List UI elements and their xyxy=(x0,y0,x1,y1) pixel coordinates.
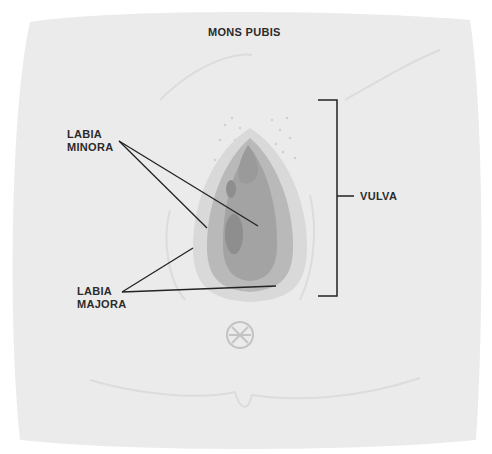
label-labia-majora-line1: LABIA xyxy=(77,285,126,298)
urethral-opening xyxy=(226,180,236,198)
label-labia-minora: LABIA MINORA xyxy=(67,128,113,154)
label-labia-majora-line2: MAJORA xyxy=(77,298,126,311)
label-labia-minora-line2: MINORA xyxy=(67,141,113,154)
vulva-anatomy-diagram: MONS PUBIS LABIA MINORA VULVA LABIA MAJO… xyxy=(0,0,492,454)
vaginal-opening xyxy=(225,214,243,254)
diagram-illustration xyxy=(0,0,492,454)
label-mons-pubis: MONS PUBIS xyxy=(208,26,281,39)
label-labia-minora-line1: LABIA xyxy=(67,128,113,141)
label-labia-majora: LABIA MAJORA xyxy=(77,285,126,311)
label-vulva: VULVA xyxy=(360,190,397,203)
